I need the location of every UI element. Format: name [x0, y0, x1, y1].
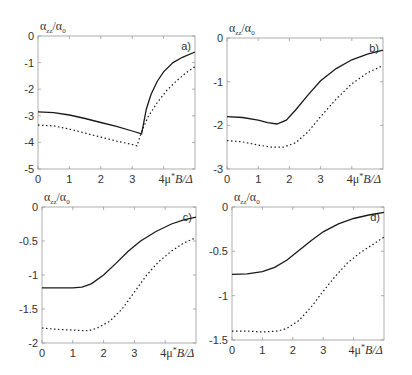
- solid-curve: [232, 212, 384, 274]
- panel-label: a): [181, 40, 191, 52]
- x-tick-label: 3: [131, 347, 137, 359]
- dotted-curve: [38, 67, 195, 146]
- dotted-curve: [227, 66, 383, 148]
- x-tick-label: 2: [286, 173, 292, 185]
- y-tick-label: -2: [24, 83, 34, 95]
- x-tick-label: 0: [39, 347, 45, 359]
- y-tick-label: -2: [28, 337, 38, 349]
- plot-frame: [232, 207, 384, 340]
- plot-frame: [38, 36, 195, 169]
- y-tick-label: 0: [217, 32, 223, 44]
- x-tick-label: 1: [255, 173, 261, 185]
- panel-a: 0-1-2-3-4-501234μ*B/Δαzz/α0a): [24, 19, 195, 186]
- y-tick-label: 0: [32, 201, 38, 213]
- x-tick-label: 0: [229, 344, 235, 356]
- y-tick-label: -4: [24, 136, 34, 148]
- x-tick-label: 3: [318, 173, 324, 185]
- solid-curve: [42, 217, 196, 288]
- y-axis-label: αzz/α0: [44, 190, 70, 206]
- y-tick-label: -1.5: [209, 334, 228, 346]
- y-axis-label: αzz/α0: [234, 190, 260, 206]
- dotted-curve: [42, 238, 196, 331]
- y-axis-label: αzz/α0: [40, 19, 66, 35]
- y-tick-label: -1: [213, 76, 223, 88]
- x-tick-label: 2: [101, 347, 107, 359]
- x-tick-label: 2: [98, 173, 104, 185]
- y-tick-label: -1: [24, 57, 34, 69]
- x-tick-label: 1: [70, 347, 76, 359]
- y-axis-label: αzz/α0: [229, 21, 255, 37]
- y-tick-label: -5: [24, 163, 34, 175]
- panel-b: 0-1-2-301234μ*B/Δαzz/α0b): [213, 21, 383, 186]
- y-tick-label: -1: [28, 269, 38, 281]
- y-tick-label: 0: [222, 201, 228, 213]
- solid-curve: [227, 50, 383, 124]
- x-tick-label: 1: [259, 344, 265, 356]
- panel-label: c): [183, 211, 192, 223]
- y-tick-label: -0.5: [19, 235, 38, 247]
- solid-curve: [38, 52, 195, 134]
- x-axis-label: 4μ*B/Δ: [347, 172, 381, 186]
- panel-c: 0-0.5-1-1.5-201234μ*B/Δαzz/α0c): [19, 190, 196, 360]
- y-tick-label: -2: [213, 119, 223, 131]
- y-tick-label: -0.5: [209, 245, 228, 257]
- x-tick-label: 1: [66, 173, 72, 185]
- x-tick-label: 0: [224, 173, 230, 185]
- x-axis-label: 4μ*B/Δ: [160, 346, 194, 360]
- y-tick-label: -3: [213, 163, 223, 175]
- x-tick-label: 3: [129, 173, 135, 185]
- x-tick-label: 3: [320, 344, 326, 356]
- x-axis-label: 4μ*B/Δ: [159, 172, 193, 186]
- dotted-curve: [232, 237, 384, 332]
- x-tick-label: 0: [35, 173, 41, 185]
- figure-canvas: 0-1-2-3-4-501234μ*B/Δαzz/α0a) 0-1-2-3012…: [0, 0, 412, 375]
- plot-frame: [42, 207, 196, 343]
- x-axis-label: 4μ*B/Δ: [349, 343, 383, 357]
- y-tick-label: -3: [24, 110, 34, 122]
- x-tick-label: 2: [290, 344, 296, 356]
- y-tick-label: 0: [28, 30, 34, 42]
- panel-d: 0-0.5-1-1.501234μ*B/Δαzz/α0d): [209, 190, 384, 357]
- y-tick-label: -1: [218, 290, 228, 302]
- y-tick-label: -1.5: [19, 303, 38, 315]
